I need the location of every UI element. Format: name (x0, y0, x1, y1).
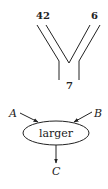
input-a-label: A (8, 107, 17, 120)
output-c-label: C (52, 165, 61, 178)
left-input-label: 42 (36, 10, 50, 21)
output-label: 7 (66, 80, 73, 91)
right-input-label: 6 (91, 10, 98, 21)
left-pipe-inner-edge (46, 25, 69, 63)
larger-node-diagram: A B larger C (8, 107, 102, 178)
node-label: larger (39, 127, 74, 140)
arrow-b-icon (74, 112, 92, 122)
y-junction-diagram: 42 6 7 (36, 10, 100, 91)
left-pipe-outer-edge (37, 25, 59, 61)
right-pipe-outer-edge (79, 25, 100, 61)
diagram-canvas: 42 6 7 A B larger C (0, 0, 108, 189)
right-pipe-inner-edge (69, 25, 90, 63)
input-b-label: B (93, 107, 102, 120)
arrow-a-icon (20, 113, 38, 122)
